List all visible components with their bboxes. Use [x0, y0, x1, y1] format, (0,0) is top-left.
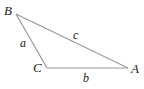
triangle-diagram: B C A a c b — [0, 0, 144, 89]
vertex-label-c: C — [33, 60, 42, 75]
side-label-a: a — [20, 36, 26, 50]
side-label-c: c — [73, 28, 79, 42]
vertex-label-a: A — [130, 61, 139, 76]
vertex-label-b: B — [4, 3, 12, 18]
side-label-b: b — [83, 71, 89, 85]
